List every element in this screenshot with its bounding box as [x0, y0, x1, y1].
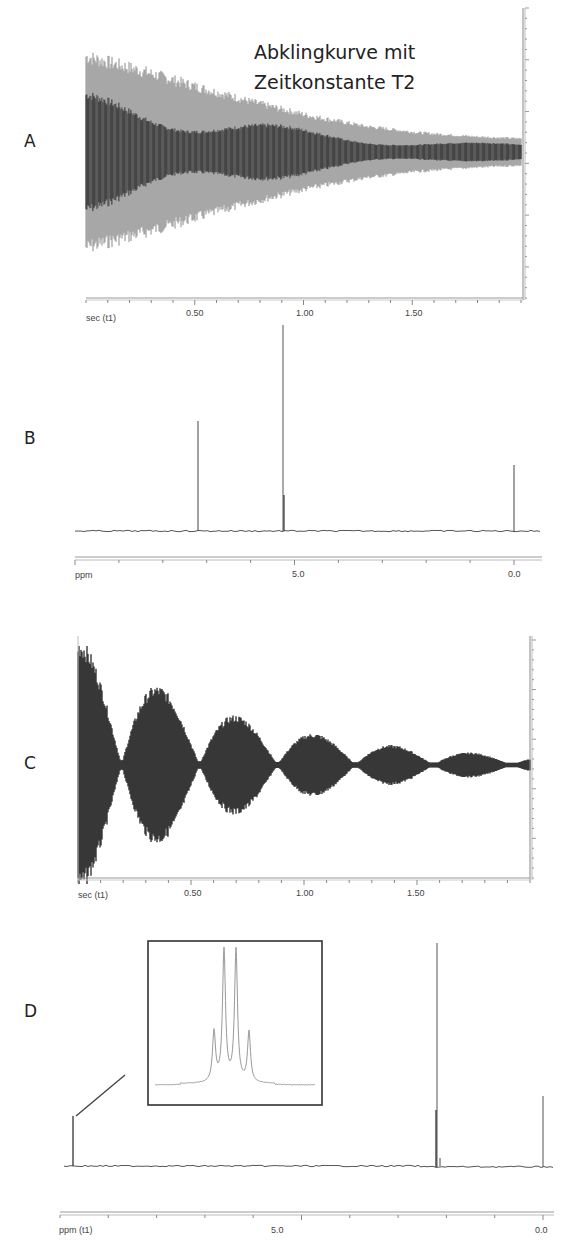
panel-label-a: A [24, 131, 36, 151]
x-axis-label-c: sec (t1) [78, 890, 108, 900]
panel-c-plot [78, 636, 536, 885]
fid-waveform-c [78, 646, 530, 884]
panel-a-title-line1: Abklingkurve mit [254, 40, 415, 64]
tick-c-1-50: 1.50 [407, 888, 425, 898]
tick-d-0-0: 0.0 [535, 1225, 548, 1235]
panel-a-title-line2: Zeitkonstante T2 [254, 70, 415, 94]
inset-pointer-line [76, 1075, 125, 1116]
panel-label-b: B [24, 428, 36, 448]
tick-b-5-0: 5.0 [292, 569, 305, 579]
tick-c-0-50: 0.50 [184, 888, 202, 898]
x-axis-label-d: ppm (t1) [59, 1225, 93, 1235]
x-axis-label-a: sec (t1) [86, 313, 116, 323]
tick-a-0-50: 0.50 [186, 308, 204, 318]
panel-label-c: C [24, 753, 36, 773]
tick-c-1-00: 1.00 [296, 888, 314, 898]
tick-d-5-0: 5.0 [271, 1225, 284, 1235]
spectrum-d-baseline [64, 1165, 553, 1167]
panel-label-d: D [24, 1001, 37, 1021]
panel-b-plot [75, 325, 542, 565]
tick-a-1-50: 1.50 [405, 308, 423, 318]
tick-a-1-00: 1.00 [296, 308, 314, 318]
panel-d-plot [60, 941, 554, 1220]
spectrum-b-baseline [75, 530, 540, 531]
tick-b-0-0: 0.0 [508, 569, 521, 579]
figure-canvas [0, 0, 570, 1256]
x-axis-label-b: ppm [75, 570, 93, 580]
